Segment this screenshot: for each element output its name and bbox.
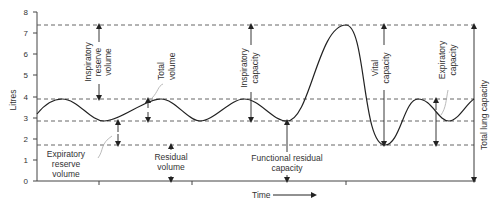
y-tick-0: 0 xyxy=(24,177,29,186)
lung-volume-trace xyxy=(37,25,474,145)
irv-label-3: volume xyxy=(103,48,113,76)
tv-label-2: volume xyxy=(167,52,177,80)
vc-label-2: capacity xyxy=(381,52,391,84)
reference-lines xyxy=(37,25,474,145)
y-tick-3: 3 xyxy=(24,114,29,123)
frc-annotation: Functional residual capacity xyxy=(251,122,322,180)
lung-volume-diagram: 0 1 2 3 4 5 6 7 8 Litres Time Inspirator… xyxy=(0,0,494,206)
x-axis: Time xyxy=(37,181,476,200)
tidal-volume-annotation: Total volume xyxy=(148,52,177,120)
rv-label-2: volume xyxy=(157,162,185,172)
y-tick-5: 5 xyxy=(24,71,29,80)
tv-label-1: Total xyxy=(156,62,166,80)
erv-label-2: reserve xyxy=(52,159,81,169)
rv-annotation: Residual volume xyxy=(154,146,187,180)
ic-annotation: Inspiratory capacity xyxy=(239,26,260,120)
frc-label-1: Functional residual xyxy=(251,153,322,163)
vc-label-1: Vital xyxy=(370,60,380,76)
ec-label-2: capacity xyxy=(448,44,458,76)
ec-label-1: Expiratory xyxy=(437,40,447,79)
irv-label-2: reserve xyxy=(93,48,103,77)
erv-label-3: volume xyxy=(52,169,80,179)
erv-annotation: Expiratory reserve volume xyxy=(47,122,118,179)
y-tick-8: 8 xyxy=(24,8,29,17)
irv-annotation: Inspiratory reserve volume xyxy=(83,26,113,98)
y-tick-6: 6 xyxy=(24,50,29,59)
y-tick-7: 7 xyxy=(24,29,29,38)
tlc-annotation: Total lung capacity xyxy=(474,26,489,180)
frc-label-2: capacity xyxy=(271,163,303,173)
ec-annotation: Expiratory capacity xyxy=(436,40,458,144)
erv-label-1: Expiratory xyxy=(47,149,86,159)
rv-label-1: Residual xyxy=(154,152,187,162)
ic-label-1: Inspiratory xyxy=(239,47,249,87)
ic-label-2: capacity xyxy=(250,52,260,84)
y-tick-2: 2 xyxy=(24,135,29,144)
y-tick-1: 1 xyxy=(24,156,29,165)
tlc-label: Total lung capacity xyxy=(479,79,489,150)
y-tick-4: 4 xyxy=(24,93,29,102)
irv-label-1: Inspiratory xyxy=(83,41,93,81)
vc-annotation: Vital capacity xyxy=(370,26,391,144)
y-axis: 0 1 2 3 4 5 6 7 8 Litres xyxy=(8,8,37,186)
y-axis-label: Litres xyxy=(8,90,18,111)
x-axis-label: Time xyxy=(252,190,271,200)
